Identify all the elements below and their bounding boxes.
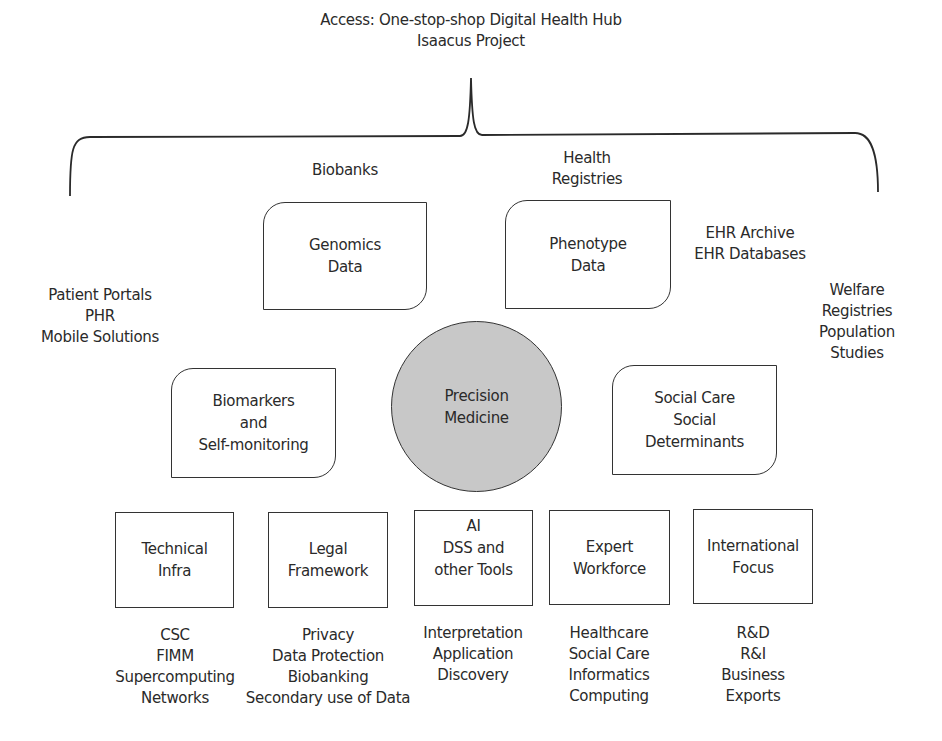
pillar-title-line: Infra bbox=[141, 560, 207, 582]
pillar-items-international: R&D R&I Business Exports bbox=[721, 623, 785, 707]
pillar-item: Exports bbox=[721, 686, 785, 707]
box-line: Self-monitoring bbox=[198, 434, 308, 456]
pillar-item: Healthcare bbox=[569, 623, 650, 644]
header-line: Isaacus Project bbox=[320, 31, 621, 52]
pillar-title-line: other Tools bbox=[434, 559, 512, 581]
label-line: Population bbox=[819, 322, 895, 343]
box-genomics-data: Genomics Data bbox=[263, 202, 427, 310]
label-health-registries: Health Registries bbox=[552, 148, 623, 190]
box-line: Data bbox=[309, 256, 381, 278]
label-line: EHR Archive bbox=[694, 223, 805, 244]
pillar-item: R&D bbox=[721, 623, 785, 644]
box-biomarkers: Biomarkers and Self-monitoring bbox=[171, 368, 336, 478]
header-title: Access: One-stop-shop Digital Health Hub… bbox=[320, 10, 621, 52]
label-welfare: Welfare Registries Population Studies bbox=[819, 280, 895, 364]
label-line: Patient Portals bbox=[41, 285, 159, 306]
circle-line: Medicine bbox=[444, 407, 509, 429]
pillar-items-legal: Privacy Data Protection Biobanking Secon… bbox=[246, 625, 410, 709]
center-precision-medicine: Precision Medicine bbox=[391, 321, 562, 492]
pillar-item: Discovery bbox=[423, 665, 522, 686]
pillar-item: Data Protection bbox=[246, 646, 410, 667]
pillar-item: FIMM bbox=[115, 646, 235, 667]
pillar-title-line: Technical bbox=[141, 538, 207, 560]
circle-line: Precision bbox=[444, 385, 509, 407]
label-line: Studies bbox=[819, 343, 895, 364]
box-social-care: Social Care Social Determinants bbox=[612, 365, 777, 475]
pillar-item: Social Care bbox=[569, 644, 650, 665]
pillar-item: Privacy bbox=[246, 625, 410, 646]
pillar-item: R&I bbox=[721, 644, 785, 665]
header-line: Access: One-stop-shop Digital Health Hub bbox=[320, 10, 621, 31]
pillar-items-workforce: Healthcare Social Care Informatics Compu… bbox=[569, 623, 650, 707]
label-line: Mobile Solutions bbox=[41, 327, 159, 348]
pillar-title-line: International bbox=[707, 535, 799, 557]
pillar-item: Interpretation bbox=[423, 623, 522, 644]
pillar-item: Secondary use of Data bbox=[246, 688, 410, 709]
box-line: Phenotype bbox=[549, 233, 626, 255]
label-line: EHR Databases bbox=[694, 244, 805, 265]
pillar-item: Business bbox=[721, 665, 785, 686]
pillar-title-line: DSS and bbox=[434, 537, 512, 559]
pillar-legal-framework: Legal Framework bbox=[268, 512, 388, 608]
pillar-title-line: Focus bbox=[707, 557, 799, 579]
pillar-item: CSC bbox=[115, 625, 235, 646]
box-line: Data bbox=[549, 255, 626, 277]
label-patient-portals: Patient Portals PHR Mobile Solutions bbox=[41, 285, 159, 348]
box-line: Biomarkers bbox=[198, 390, 308, 412]
pillar-title-line: Legal bbox=[288, 538, 368, 560]
pillar-items-technical: CSC FIMM Supercomputing Networks bbox=[115, 625, 235, 709]
box-phenotype-data: Phenotype Data bbox=[505, 200, 671, 309]
box-line: Social bbox=[645, 409, 744, 431]
label-line: Registries bbox=[819, 301, 895, 322]
box-line: Genomics bbox=[309, 234, 381, 256]
label-line: PHR bbox=[41, 306, 159, 327]
pillar-item: Application bbox=[423, 644, 522, 665]
pillar-title-line: Expert bbox=[573, 536, 646, 558]
box-line: Social Care bbox=[645, 387, 744, 409]
pillar-title-line: Framework bbox=[288, 560, 368, 582]
label-ehr: EHR Archive EHR Databases bbox=[694, 223, 805, 265]
pillar-expert-workforce: Expert Workforce bbox=[549, 510, 670, 605]
pillar-item: Networks bbox=[115, 688, 235, 709]
label-biobanks: Biobanks bbox=[312, 160, 378, 181]
box-line: and bbox=[198, 412, 308, 434]
pillar-item: Supercomputing bbox=[115, 667, 235, 688]
box-line: Determinants bbox=[645, 431, 744, 453]
pillar-item: Biobanking bbox=[246, 667, 410, 688]
pillar-technical-infra: Technical Infra bbox=[115, 512, 234, 608]
label-line: Health bbox=[552, 148, 623, 169]
label-line: Registries bbox=[552, 169, 623, 190]
label-line: Welfare bbox=[819, 280, 895, 301]
pillar-international-focus: International Focus bbox=[693, 509, 813, 604]
precision-medicine-diagram: Access: One-stop-shop Digital Health Hub… bbox=[0, 0, 942, 741]
pillar-ai-tools: AI DSS and other Tools bbox=[414, 510, 533, 606]
label-line: Biobanks bbox=[312, 160, 378, 181]
pillar-title-line: AI bbox=[434, 515, 512, 537]
pillar-item: Computing bbox=[569, 686, 650, 707]
pillar-title-line: Workforce bbox=[573, 558, 646, 580]
pillar-item: Informatics bbox=[569, 665, 650, 686]
pillar-items-ai: Interpretation Application Discovery bbox=[423, 623, 522, 686]
